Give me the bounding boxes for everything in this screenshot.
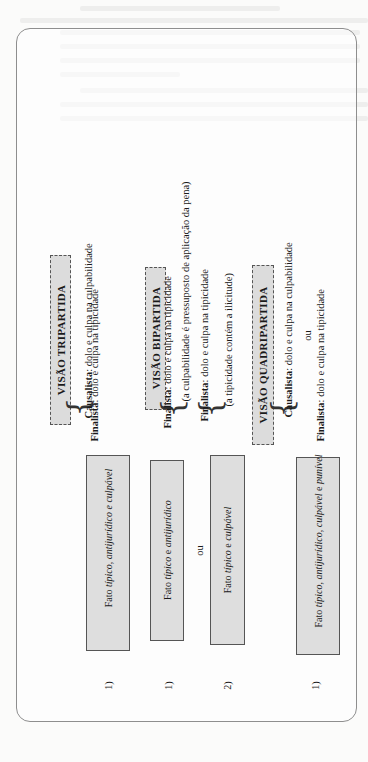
quadripartida-finalista-line: Finalista: dolo e culpa na tipicidade (315, 182, 326, 442)
fact-text: Fato típico e culpável (222, 455, 234, 645)
fact-number: 1) (163, 678, 174, 694)
fact-number: 2) (222, 678, 233, 694)
fact-text: Fato típico e antijurídico (162, 460, 174, 641)
vision-bipartida-title: VISÃO BIPARTIDA (150, 273, 162, 403)
fact-text: Fato típico, antijurídico, culpável e pu… (313, 442, 325, 640)
fact-box-bipartida-1: Fato típico e antijurídico (150, 460, 184, 641)
bipartida-finalista-line-1: Finalista: dolo e culpa na tipicidade (162, 179, 173, 429)
vision-quadripartida-box: VISÃO QUADRIPARTIDA (252, 265, 274, 445)
quadripartida-ou: ou (302, 321, 313, 351)
vision-tripartida-title: VISÃO TRIPARTIDA (55, 265, 67, 415)
fact-connector-ou: ou (194, 536, 205, 566)
bipartida-finalista-line-2: Finalista: dolo e culpa na tipicidade (199, 192, 210, 422)
fact-box-tripartida: Fato típico, antijurídico e culpável (86, 455, 130, 651)
bipartida-note-2: (a tipicidade contém a ilicitude) (223, 187, 234, 417)
tripartida-finalista-line: Finalista: dolo e culpa na tipicidade (89, 182, 100, 442)
quadripartida-causalista-line: Causalista: dolo e culpa na culpabilidad… (283, 118, 294, 418)
fact-box-quadripartida: Fato típico, antijurídico, culpável e pu… (296, 457, 340, 655)
fact-number: 1) (103, 678, 114, 694)
fact-number: 1) (310, 678, 321, 694)
bipartida-note-1: (a culpabilidade é pressuposto de aplica… (180, 102, 191, 412)
fact-text: Fato típico, antijurídico e culpável (103, 440, 115, 636)
fact-box-bipartida-2: Fato típico e culpável (210, 455, 245, 645)
